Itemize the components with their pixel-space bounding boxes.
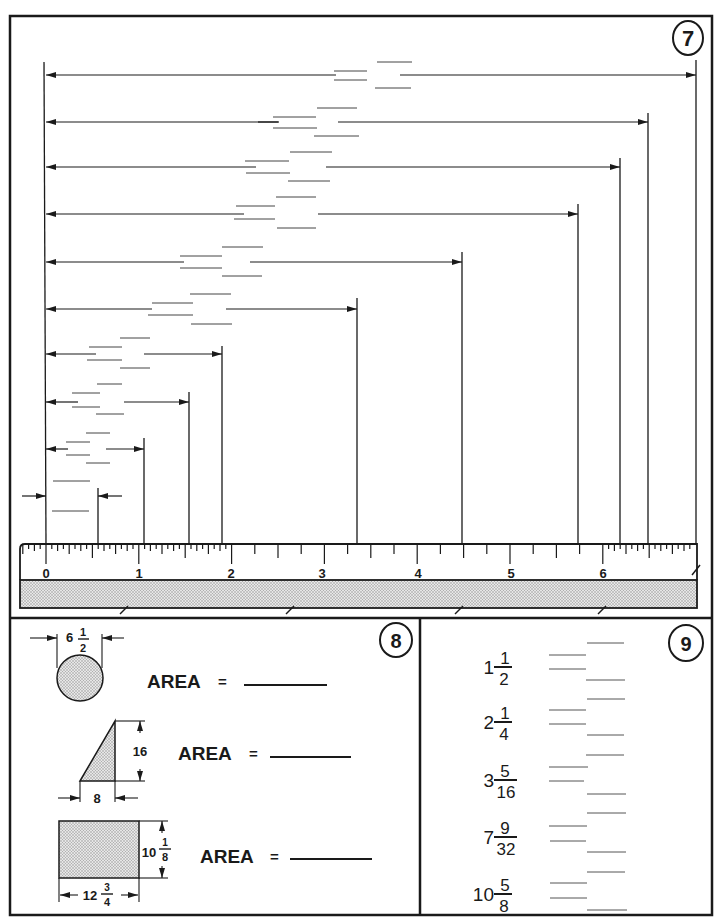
svg-text:16: 16: [497, 783, 516, 802]
mixed-fraction: 1058: [473, 876, 512, 916]
svg-text:8: 8: [162, 851, 168, 863]
svg-text:1: 1: [135, 566, 142, 581]
dimension-line: [46, 247, 462, 545]
mixed-fraction: 3516: [483, 762, 517, 802]
svg-text:4: 4: [104, 896, 111, 908]
mixed-fraction: 112: [483, 649, 512, 689]
mixed-fraction: 7932: [483, 819, 517, 859]
svg-text:8: 8: [390, 630, 401, 652]
figure-9: 9 112214351679321058: [473, 625, 703, 916]
figure-8: 8 6 1 2 AREA = 16: [30, 623, 412, 908]
figure-number: 7: [682, 26, 694, 51]
svg-text:5: 5: [507, 566, 514, 581]
svg-text:2: 2: [483, 712, 494, 733]
figure-number-badge: 8: [380, 623, 412, 657]
svg-text:=: =: [249, 745, 258, 762]
svg-text:2: 2: [80, 642, 86, 654]
dimension-line: [46, 294, 357, 545]
svg-text:1: 1: [500, 649, 509, 668]
answer-blanks[interactable]: [52, 481, 90, 511]
svg-text:6: 6: [66, 630, 73, 645]
ruler: 0 1 2 3 4 5 6: [20, 544, 700, 614]
dimension-line: [46, 433, 144, 545]
svg-text:3: 3: [318, 566, 325, 581]
dimension-line: [46, 108, 648, 545]
answer-blanks[interactable]: [72, 384, 124, 414]
answer-blanks[interactable]: [245, 152, 332, 181]
svg-text:32: 32: [497, 840, 516, 859]
svg-text:AREA: AREA: [147, 671, 201, 692]
svg-text:4: 4: [414, 566, 422, 581]
svg-text:5: 5: [500, 876, 509, 895]
svg-text:1: 1: [483, 657, 494, 678]
svg-text:10: 10: [142, 845, 156, 860]
mixed-fraction: 214: [483, 704, 512, 744]
svg-text:12: 12: [83, 888, 97, 903]
svg-text:7: 7: [483, 827, 494, 848]
svg-text:=: =: [218, 673, 227, 690]
svg-text:6: 6: [599, 566, 606, 581]
svg-text:9: 9: [680, 633, 691, 655]
svg-text:AREA: AREA: [200, 846, 254, 867]
circle-area-row: AREA =: [147, 671, 327, 692]
figure-7: 7: [20, 21, 703, 614]
svg-text:2: 2: [499, 670, 508, 689]
triangle-area-row: AREA =: [178, 743, 351, 764]
ruler-body: [20, 580, 697, 608]
svg-text:3: 3: [104, 882, 110, 893]
answer-blanks[interactable]: [66, 433, 110, 463]
svg-text:1: 1: [162, 837, 168, 848]
answer-blanks[interactable]: [234, 197, 316, 228]
svg-text:9: 9: [500, 819, 509, 838]
fraction-list: 112214351679321058: [473, 649, 517, 916]
svg-text:3: 3: [483, 770, 494, 791]
svg-text:8: 8: [499, 897, 508, 916]
zero-extension-line: [44, 62, 46, 545]
svg-text:0: 0: [42, 566, 49, 581]
dimension-line: [46, 384, 189, 545]
answer-blanks[interactable]: [148, 294, 232, 324]
figure-number-badge: 7: [673, 21, 703, 55]
worksheet-canvas: 7: [0, 0, 722, 923]
svg-text:=: =: [270, 848, 279, 865]
svg-text:AREA: AREA: [178, 743, 232, 764]
svg-text:5: 5: [500, 762, 509, 781]
figure-number-badge: 9: [669, 625, 703, 661]
dimension-line: [46, 197, 578, 545]
dimension-line: [46, 152, 620, 545]
rectangle-area-row: AREA =: [200, 846, 372, 867]
svg-text:2: 2: [227, 566, 234, 581]
svg-text:16: 16: [133, 744, 147, 759]
answer-blanks[interactable]: [87, 338, 150, 368]
svg-text:10: 10: [473, 884, 494, 905]
dimension-line: [22, 481, 122, 545]
svg-text:1: 1: [500, 704, 509, 723]
answer-blanks[interactable]: [549, 643, 627, 910]
svg-text:8: 8: [93, 791, 100, 806]
triangle-shape: 16 8: [58, 721, 147, 806]
svg-text:4: 4: [499, 725, 508, 744]
rectangle-shape: 10 1 8 12 3 4: [59, 821, 171, 908]
svg-text:1: 1: [80, 626, 86, 638]
circle-shape: 6 1 2: [30, 626, 124, 701]
